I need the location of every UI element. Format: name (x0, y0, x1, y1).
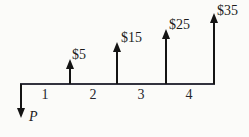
period-label-3: 3 (135, 88, 147, 102)
cash-flow-label-3: $25 (169, 18, 190, 32)
cash-flow-diagram: P $5 $15 $25 $35 1 2 3 4 (0, 0, 249, 137)
present-value-arrow-stem (20, 84, 22, 110)
period-label-2: 2 (87, 88, 99, 102)
cash-flow-label-4: $35 (217, 4, 238, 18)
cash-flow-arrow-stem-1 (69, 67, 71, 84)
cash-flow-arrow-stem-3 (165, 37, 167, 84)
cash-flow-arrow-stem-2 (116, 50, 118, 84)
cash-flow-label-2: $15 (121, 31, 142, 45)
period-label-4: 4 (183, 88, 195, 102)
cash-flow-label-1: $5 (72, 48, 86, 62)
cash-flow-arrow-stem-4 (213, 21, 215, 84)
arrow-down-icon (17, 108, 25, 118)
present-value-label: P (29, 110, 38, 124)
period-label-1: 1 (39, 88, 51, 102)
